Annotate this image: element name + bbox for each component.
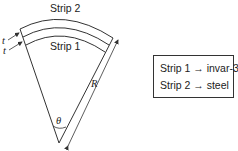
strip2-label: Strip 2 [50, 2, 80, 14]
legend-item-strip1: Strip 1 → invar-36 [160, 62, 238, 74]
angle-arc [53, 126, 66, 128]
angle-label: θ [56, 115, 61, 126]
radius-label: R [91, 78, 97, 89]
material-legend: Strip 1 → invar-36 Strip 2 → steel [153, 55, 234, 98]
outer-arc [20, 19, 113, 38]
radius-arrow [68, 40, 118, 146]
thickness-arrow-bottom [9, 42, 22, 50]
legend-item-strip2: Strip 2 → steel [160, 79, 229, 91]
strip1-label: Strip 1 [50, 40, 80, 52]
thickness-label-bottom: t [3, 45, 6, 56]
sector-right-edge [59, 38, 113, 143]
thickness-arrow-top [8, 33, 19, 40]
